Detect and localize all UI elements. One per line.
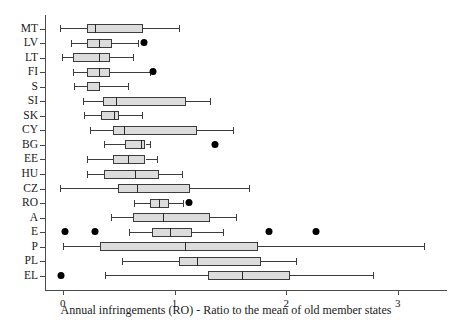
- lower-whisker: [129, 232, 152, 233]
- outlier-point: [186, 199, 193, 206]
- x-tick-mark: [63, 290, 64, 295]
- upper-whisker: [143, 28, 179, 29]
- box-iqr: [104, 170, 159, 179]
- lower-whisker: [84, 115, 101, 116]
- lower-whisker-cap: [83, 98, 84, 105]
- upper-whisker-cap: [236, 214, 237, 221]
- median-line: [99, 82, 100, 91]
- median-line: [170, 228, 171, 237]
- upper-whisker: [186, 101, 211, 102]
- category-label-p: P: [32, 241, 38, 253]
- lower-whisker: [111, 217, 133, 218]
- upper-whisker: [110, 57, 133, 58]
- upper-whisker: [258, 246, 423, 247]
- boxplot-figure: MTLVLTFISSISKCYBGEEHUCZROAEPPLEL 0123 An…: [0, 0, 452, 331]
- outlier-point: [141, 39, 148, 46]
- upper-whisker-cap: [296, 258, 297, 265]
- category-label-cz: CZ: [23, 183, 38, 195]
- upper-whisker-cap: [183, 200, 184, 207]
- median-line: [95, 24, 96, 33]
- category-label-pl: PL: [25, 256, 38, 268]
- upper-whisker: [192, 232, 222, 233]
- box-iqr: [103, 97, 186, 106]
- lower-whisker-cap: [87, 156, 88, 163]
- lower-whisker-cap: [90, 127, 91, 134]
- median-line: [242, 271, 243, 280]
- box-row-p: [45, 240, 447, 254]
- upper-whisker: [210, 217, 236, 218]
- upper-whisker-cap: [249, 185, 250, 192]
- x-axis-title: Annual infringements (RO) - Ratio to the…: [0, 303, 452, 318]
- lower-whisker: [104, 144, 125, 145]
- outlier-point: [211, 141, 218, 148]
- box-row-a: [45, 211, 447, 225]
- lower-whisker-cap: [60, 185, 61, 192]
- upper-whisker: [190, 188, 249, 189]
- lower-whisker: [74, 86, 87, 87]
- lower-whisker-cap: [62, 54, 63, 61]
- lower-whisker-cap: [129, 229, 130, 236]
- box-row-cz: [45, 182, 447, 196]
- category-axis-labels: MTLVLTFISSISKCYBGEEHUCZROAEPPLEL: [0, 15, 38, 290]
- upper-whisker-cap: [179, 25, 180, 32]
- lower-whisker-cap: [74, 83, 75, 90]
- upper-whisker-cap: [424, 243, 425, 250]
- median-line: [99, 53, 100, 62]
- lower-whisker: [83, 101, 103, 102]
- box-iqr: [118, 184, 191, 193]
- category-label-si: SI: [28, 96, 38, 108]
- upper-whisker: [261, 261, 297, 262]
- x-axis-line: [45, 290, 447, 291]
- median-line: [99, 39, 100, 48]
- upper-whisker: [197, 130, 233, 131]
- x-tick-mark: [398, 290, 399, 295]
- lower-whisker: [105, 275, 208, 276]
- category-label-cy: CY: [22, 125, 38, 137]
- lower-whisker-cap: [122, 258, 123, 265]
- category-label-ro: RO: [22, 197, 38, 209]
- outlier-point: [150, 68, 157, 75]
- lower-whisker: [60, 188, 118, 189]
- upper-whisker-cap: [373, 272, 374, 279]
- box-iqr: [125, 140, 145, 149]
- x-tick-mark: [286, 290, 287, 295]
- box-row-lv: [45, 37, 447, 51]
- upper-whisker: [119, 115, 142, 116]
- upper-whisker: [146, 159, 157, 160]
- lower-whisker-cap: [73, 69, 74, 76]
- box-iqr: [73, 53, 110, 62]
- category-label-mt: MT: [21, 23, 38, 35]
- median-line: [124, 126, 125, 135]
- lower-whisker-cap: [105, 272, 106, 279]
- lower-whisker-cap: [84, 112, 85, 119]
- category-label-a: A: [30, 212, 38, 224]
- outlier-point: [92, 228, 99, 235]
- box-iqr: [113, 155, 145, 164]
- box-row-ee: [45, 153, 447, 167]
- upper-whisker: [290, 275, 374, 276]
- box-iqr: [208, 271, 290, 280]
- lower-whisker-cap: [60, 25, 61, 32]
- upper-whisker-cap: [142, 112, 143, 119]
- outlier-point: [57, 272, 64, 279]
- lower-whisker: [60, 28, 88, 29]
- upper-whisker-cap: [233, 127, 234, 134]
- upper-whisker: [112, 43, 138, 44]
- upper-whisker-cap: [182, 171, 183, 178]
- upper-whisker-cap: [150, 141, 151, 148]
- median-line: [141, 140, 142, 149]
- lower-whisker-cap: [111, 214, 112, 221]
- median-line: [137, 184, 138, 193]
- box-row-ro: [45, 197, 447, 211]
- box-iqr: [87, 39, 112, 48]
- median-line: [197, 257, 198, 266]
- outlier-point: [313, 228, 320, 235]
- box-iqr: [113, 126, 197, 135]
- lower-whisker: [73, 72, 88, 73]
- lower-whisker-cap: [104, 141, 105, 148]
- upper-whisker: [159, 174, 182, 175]
- box-iqr: [100, 242, 259, 251]
- category-label-hu: HU: [21, 168, 38, 180]
- lower-whisker: [71, 43, 88, 44]
- median-line: [99, 68, 100, 77]
